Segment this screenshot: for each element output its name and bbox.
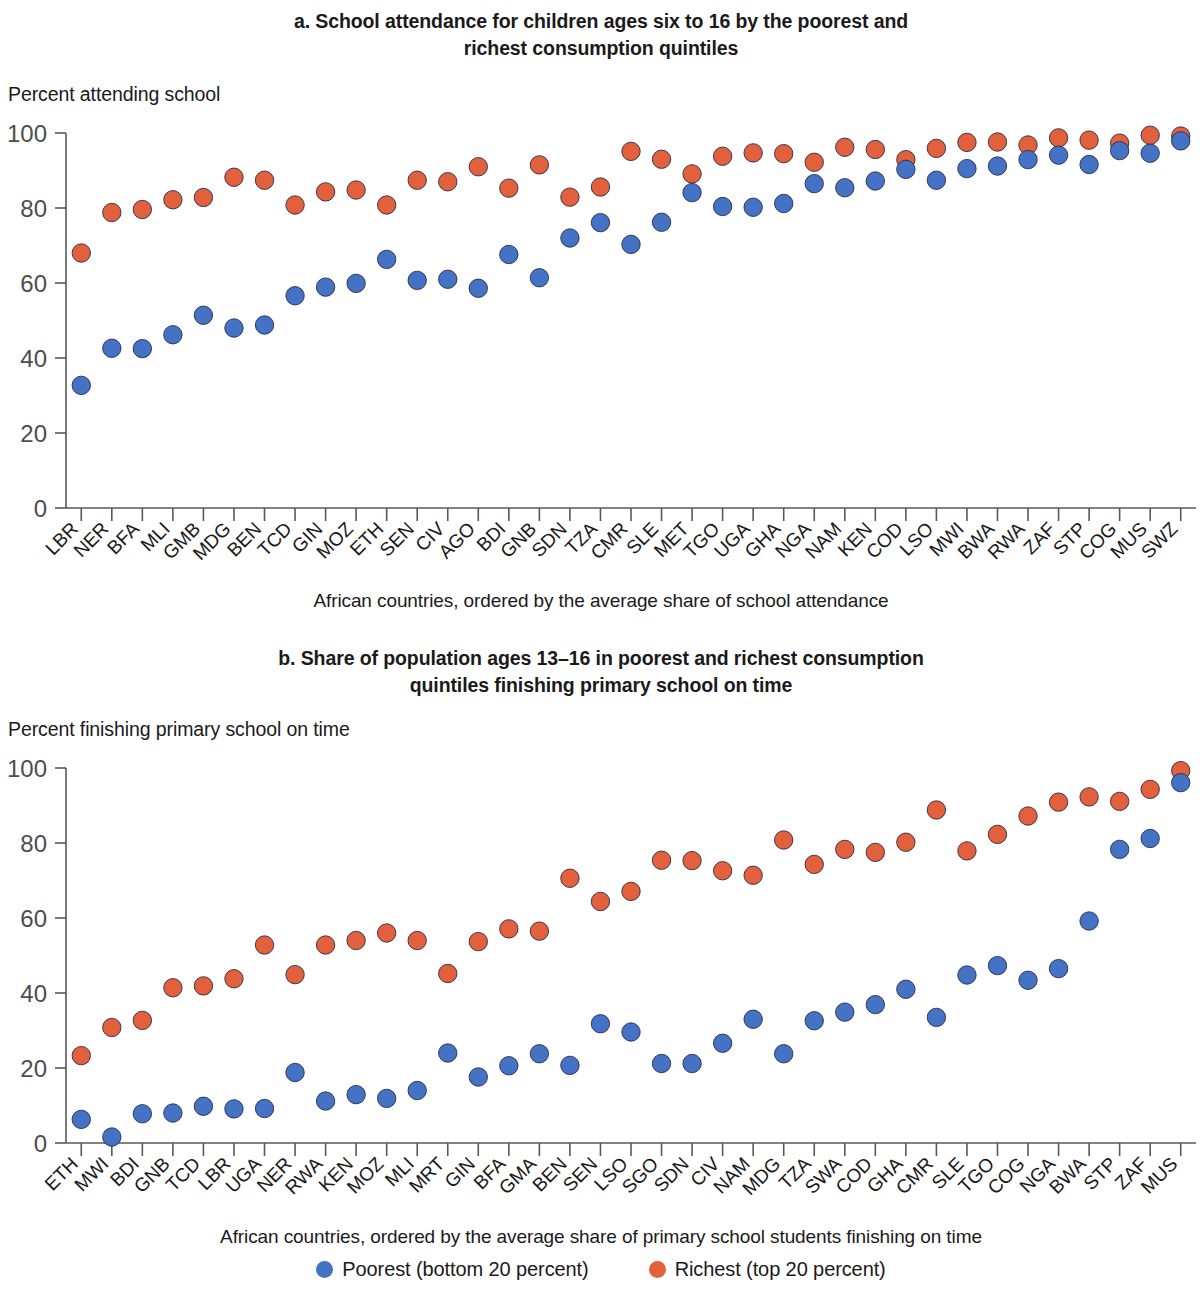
data-point	[530, 156, 548, 174]
data-point	[988, 157, 1006, 175]
data-point	[897, 980, 915, 998]
data-point	[377, 250, 395, 268]
data-point	[439, 1044, 457, 1062]
panel-b-title: b. Share of population ages 13–16 in poo…	[0, 645, 1202, 699]
data-point	[286, 287, 304, 305]
data-point	[133, 200, 151, 218]
data-point	[377, 196, 395, 214]
data-point	[988, 825, 1006, 843]
data-point	[164, 191, 182, 209]
data-point	[927, 1008, 945, 1026]
data-point	[1019, 971, 1037, 989]
data-point	[744, 866, 762, 884]
data-point	[713, 147, 731, 165]
data-point	[72, 244, 90, 262]
data-point	[683, 165, 701, 183]
data-point	[652, 851, 670, 869]
data-point	[805, 153, 823, 171]
data-point	[591, 178, 609, 196]
data-point	[1141, 780, 1159, 798]
data-point	[1080, 131, 1098, 149]
data-point	[591, 892, 609, 910]
data-point	[530, 1045, 548, 1063]
data-point	[469, 932, 487, 950]
data-point	[408, 931, 426, 949]
data-point	[927, 139, 945, 157]
data-point	[805, 174, 823, 192]
data-point	[316, 278, 334, 296]
data-point	[286, 965, 304, 983]
data-point	[286, 1063, 304, 1081]
data-point	[439, 964, 457, 982]
data-point	[958, 133, 976, 151]
legend-item-richest: Richest (top 20 percent)	[649, 1258, 886, 1281]
data-point	[164, 1104, 182, 1122]
data-point	[927, 801, 945, 819]
data-point	[591, 1015, 609, 1033]
y-tick-label: 100	[7, 755, 47, 782]
data-point	[622, 882, 640, 900]
panel-a-title-line2: richest consumption quintiles	[0, 35, 1202, 62]
data-point	[316, 936, 334, 954]
data-point	[561, 188, 579, 206]
data-point	[347, 931, 365, 949]
data-point	[1172, 773, 1190, 791]
data-point	[897, 160, 915, 178]
data-point	[1049, 146, 1067, 164]
data-point	[103, 1128, 121, 1146]
data-point	[194, 1097, 212, 1115]
data-point	[72, 376, 90, 394]
data-point	[194, 188, 212, 206]
data-point	[255, 171, 273, 189]
y-tick-label: 40	[20, 345, 47, 372]
data-point	[591, 213, 609, 231]
data-point	[469, 158, 487, 176]
data-point	[72, 1110, 90, 1128]
chart-legend: Poorest (bottom 20 percent) Richest (top…	[0, 1258, 1202, 1281]
panel-b-svg: 020406080100ETHMWIBDIGNBTCDLBRUGANERRWAK…	[0, 753, 1202, 1223]
data-point	[439, 270, 457, 288]
panel-b-y-axis-label: Percent finishing primary school on time	[8, 718, 350, 741]
y-tick-label: 40	[20, 980, 47, 1007]
data-point	[103, 1018, 121, 1036]
data-point	[255, 936, 273, 954]
data-point	[561, 229, 579, 247]
data-point	[255, 316, 273, 334]
data-point	[469, 1068, 487, 1086]
data-point	[72, 1046, 90, 1064]
panel-a-plot: 020406080100LBRNERBFAMLIGMBMDGBENTCDGINM…	[0, 118, 1202, 588]
data-point	[683, 1054, 701, 1072]
data-point	[286, 196, 304, 214]
data-point	[958, 159, 976, 177]
data-point	[866, 843, 884, 861]
data-point	[1080, 155, 1098, 173]
data-point	[652, 213, 670, 231]
x-category-label: SWZ	[1137, 518, 1182, 563]
data-point	[805, 1012, 823, 1030]
y-tick-label: 20	[20, 420, 47, 447]
data-point	[866, 140, 884, 158]
panel-a-y-axis-label: Percent attending school	[8, 83, 220, 106]
data-point	[1110, 792, 1128, 810]
data-point	[255, 1099, 273, 1117]
data-point	[1141, 126, 1159, 144]
data-point	[500, 1057, 518, 1075]
data-point	[1172, 132, 1190, 150]
data-point	[988, 956, 1006, 974]
data-point	[927, 171, 945, 189]
data-point	[1080, 912, 1098, 930]
panel-b-plot: 020406080100ETHMWIBDIGNBTCDLBRUGANERRWAK…	[0, 753, 1202, 1223]
data-point	[652, 1054, 670, 1072]
panel-b-title-line2: quintiles finishing primary school on ti…	[0, 672, 1202, 699]
data-point	[866, 172, 884, 190]
data-point	[744, 198, 762, 216]
data-point	[622, 1023, 640, 1041]
data-point	[103, 203, 121, 221]
data-point	[408, 171, 426, 189]
y-tick-label: 20	[20, 1055, 47, 1082]
data-point	[164, 979, 182, 997]
y-tick-label: 60	[20, 905, 47, 932]
data-point	[194, 306, 212, 324]
data-point	[897, 833, 915, 851]
x-category-label: ZAF	[1019, 518, 1059, 558]
